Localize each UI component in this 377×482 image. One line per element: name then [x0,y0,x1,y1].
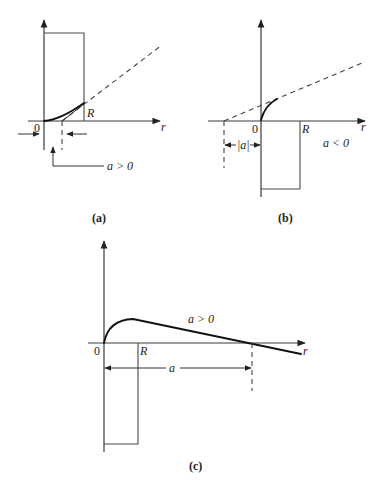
panel-c-r-label: r [303,344,308,358]
panel-a: 0 R r a > 0 (a) [18,20,166,225]
panel-a-callout-arrow [53,147,104,166]
panel-c-condition-label: a > 0 [188,312,214,326]
panel-b-potential-box [261,121,300,189]
panel-b: 0 R r |a| a < 0 (b) [208,20,366,225]
scattering-length-diagram: 0 R r a > 0 (a) 0 R r |a| a < 0 (b) [0,0,377,482]
panel-b-abs-a-label: |a| [237,138,250,152]
panel-a-R-label: R [86,106,95,120]
panel-c-R-label: R [139,344,148,358]
panel-a-r-label: r [161,120,166,134]
panel-b-condition-label: a < 0 [323,136,349,150]
panel-b-caption: (b) [278,211,293,225]
panel-c-caption: (c) [189,459,202,473]
panel-a-origin-label: 0 [34,121,40,135]
panel-c-a-label: a [169,361,175,375]
panel-b-origin-label: 0 [252,122,258,136]
panel-a-wavefunction-curve [44,103,84,121]
panel-b-asymptote-line [224,63,362,121]
panel-a-condition-label: a > 0 [107,159,133,173]
panel-c: 0 R r a a > 0 (c) [88,241,308,473]
panel-c-origin-label: 0 [94,344,100,358]
panel-a-tangent-segment [62,104,84,121]
panel-b-r-label: r [361,120,366,134]
panel-a-caption: (a) [92,211,106,225]
panel-b-R-label: R [301,122,310,136]
panel-c-potential-box [104,343,138,444]
